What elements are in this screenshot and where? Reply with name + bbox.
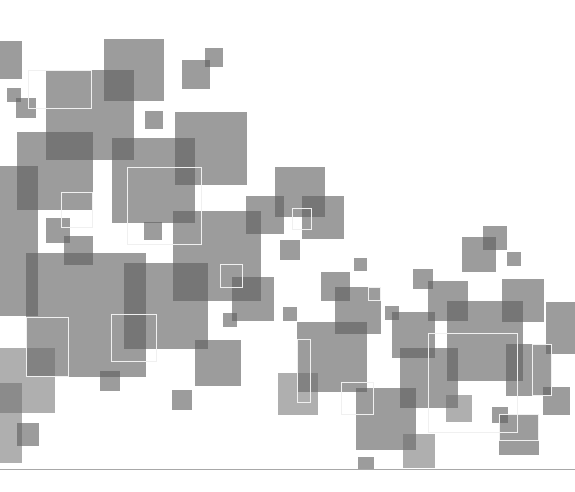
outline-square [499, 414, 539, 441]
gray-square [354, 258, 367, 271]
gray-square [145, 111, 163, 129]
outline-square [61, 192, 93, 228]
gray-square [0, 41, 22, 79]
gray-square [223, 313, 237, 327]
outline-square [292, 208, 312, 230]
gray-square [280, 240, 300, 260]
outline-square [111, 314, 157, 362]
outline-square [368, 287, 381, 301]
gray-square [100, 371, 120, 391]
gray-square [483, 226, 507, 250]
gray-square [507, 252, 521, 266]
gray-square [17, 423, 39, 446]
outline-square [532, 344, 552, 396]
gray-square [195, 340, 241, 386]
baseline-rule [0, 469, 575, 470]
outline-square [341, 382, 374, 415]
gray-square [403, 434, 435, 468]
outline-square [297, 339, 311, 403]
outline-square [220, 264, 243, 288]
gray-square [205, 48, 223, 67]
outline-square [28, 70, 92, 109]
gray-square [283, 307, 297, 321]
gray-square [502, 279, 544, 322]
outline-square [26, 317, 69, 377]
outline-square [127, 167, 202, 245]
gray-square [358, 457, 374, 469]
abstract-squares-artwork [0, 0, 575, 492]
gray-square [172, 390, 192, 410]
